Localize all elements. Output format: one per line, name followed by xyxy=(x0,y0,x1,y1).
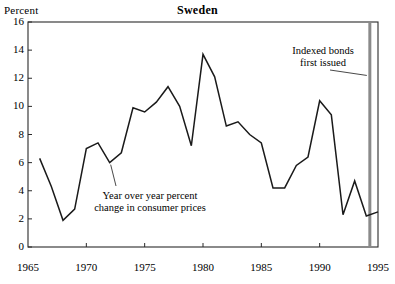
x-tick-label-1990: 1990 xyxy=(298,261,342,273)
y-tick-label-2: 2 xyxy=(2,212,24,224)
chart-container: Percent Sweden 0246810121416 19651970197… xyxy=(0,0,395,284)
y-tick-label-12: 12 xyxy=(2,71,24,83)
annotation-series-line-2: change in consumer prices xyxy=(72,202,228,214)
y-tick-label-4: 4 xyxy=(2,184,24,196)
y-tick-label-8: 8 xyxy=(2,128,24,140)
annotation-bonds-line-2: first issued xyxy=(268,57,378,69)
x-tick-label-1980: 1980 xyxy=(181,261,225,273)
y-tick-label-10: 10 xyxy=(2,99,24,111)
y-tick-label-16: 16 xyxy=(2,15,24,27)
chart-plot-area xyxy=(0,0,395,284)
annotation-leader-lines xyxy=(111,70,367,186)
annotation-series-label: Year over year percent change in consume… xyxy=(72,190,228,214)
annotation-bonds-line-1: Indexed bonds xyxy=(268,45,378,57)
annotation-indexed-bonds: Indexed bonds first issued xyxy=(268,45,378,69)
x-tick-label-1965: 1965 xyxy=(6,261,50,273)
y-axis-ticks xyxy=(28,22,32,247)
x-tick-label-1970: 1970 xyxy=(64,261,108,273)
y-tick-label-0: 0 xyxy=(2,240,24,252)
annotation-series-line-1: Year over year percent xyxy=(72,190,228,202)
y-tick-label-6: 6 xyxy=(2,156,24,168)
y-tick-label-14: 14 xyxy=(2,43,24,55)
x-tick-label-1975: 1975 xyxy=(123,261,167,273)
x-tick-label-1985: 1985 xyxy=(239,261,283,273)
x-tick-label-1995: 1995 xyxy=(356,261,395,273)
x-axis-ticks xyxy=(86,243,319,247)
